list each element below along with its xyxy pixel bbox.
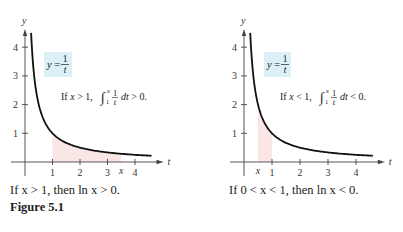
svg-text:t: t bbox=[284, 65, 287, 75]
y-axis-label: y bbox=[240, 15, 246, 26]
chart-left: ty12341234xy = 1tIf x > 1, ∫x11tdt > 0. bbox=[11, 15, 171, 178]
x-tick-label: 4 bbox=[133, 167, 138, 178]
y-tick-label: 2 bbox=[13, 99, 18, 110]
figure-label: Figure 5.1 bbox=[10, 200, 64, 215]
shaded-area bbox=[53, 133, 122, 162]
svg-text:If x > 1,: If x > 1, bbox=[61, 91, 93, 102]
x-tick-label: 3 bbox=[105, 167, 110, 178]
y-tick-label: 1 bbox=[232, 128, 237, 139]
y-tick-label: 3 bbox=[232, 70, 237, 81]
svg-text:t: t bbox=[64, 65, 67, 75]
y-axis-arrow-icon bbox=[23, 29, 27, 36]
x-tick-label: 1 bbox=[270, 167, 275, 178]
y-tick-label: 1 bbox=[13, 128, 18, 139]
svg-text:x: x bbox=[325, 87, 329, 94]
x-tick-label: 4 bbox=[354, 167, 359, 178]
x-marker-label: x bbox=[118, 165, 124, 176]
t-axis-label: t bbox=[389, 156, 392, 167]
y-tick-label: 4 bbox=[232, 42, 237, 53]
svg-text:t: t bbox=[114, 97, 117, 107]
svg-text:dt > 0.: dt > 0. bbox=[121, 91, 147, 102]
t-axis-label: t bbox=[168, 156, 171, 167]
curve-label: y = bbox=[46, 59, 60, 70]
svg-text:dt < 0.: dt < 0. bbox=[340, 91, 366, 102]
caption-left: If x > 1, then ln x > 0. bbox=[10, 183, 120, 198]
svg-text:1: 1 bbox=[106, 98, 109, 105]
x-tick-label: 1 bbox=[50, 167, 55, 178]
svg-text:t: t bbox=[333, 97, 336, 107]
y-tick-label: 3 bbox=[13, 70, 18, 81]
x-tick-label: 2 bbox=[298, 167, 303, 178]
x-marker-label: x bbox=[255, 165, 261, 176]
svg-text:x: x bbox=[106, 87, 110, 94]
t-axis-arrow-icon bbox=[157, 160, 164, 164]
y-axis-label: y bbox=[21, 15, 27, 26]
svg-text:1: 1 bbox=[63, 54, 68, 64]
caption-right: If 0 < x < 1, then ln x < 0. bbox=[229, 183, 358, 198]
t-axis-arrow-icon bbox=[378, 160, 385, 164]
x-tick-label: 2 bbox=[78, 167, 83, 178]
curve-label: y = bbox=[266, 59, 280, 70]
y-axis-arrow-icon bbox=[242, 29, 246, 36]
chart-right: ty12341234xy = 1tIf x < 1, ∫x11tdt < 0. bbox=[230, 15, 392, 178]
svg-text:1: 1 bbox=[283, 54, 288, 64]
y-tick-label: 2 bbox=[232, 99, 237, 110]
svg-text:If x < 1,: If x < 1, bbox=[280, 91, 312, 102]
integral-annotation: If x > 1, ∫x11tdt > 0. bbox=[61, 87, 147, 107]
x-tick-label: 3 bbox=[326, 167, 331, 178]
svg-text:1: 1 bbox=[325, 98, 328, 105]
y-tick-label: 4 bbox=[13, 42, 18, 53]
integral-annotation: If x < 1, ∫x11tdt < 0. bbox=[280, 87, 366, 107]
